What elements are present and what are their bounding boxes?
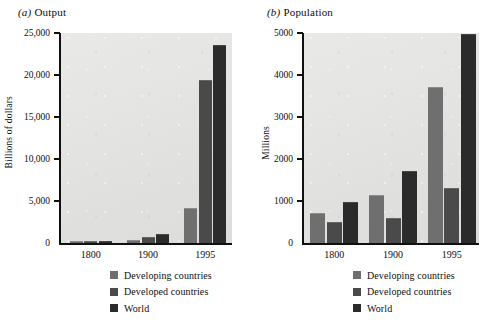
legend-item[interactable]: Developed countries [353,285,455,299]
y-tick-label: 5000 [247,28,293,38]
panel-b-title: (b) Population [267,6,333,18]
legend-label: Developing countries [124,270,212,281]
legend-swatch-developed-icon [353,288,361,296]
y-tick-mark [297,158,303,160]
legend-label: Developed countries [124,286,208,297]
legend-item[interactable]: World [353,301,455,315]
y-tick-mark [54,116,60,118]
bar-1800-series0 [310,213,325,243]
panel-a-plot-area [60,33,232,243]
y-tick-label: 1000 [247,196,293,206]
panel-a-title-text: Output [34,6,66,18]
legend-swatch-world-icon [353,304,361,312]
bar-1800-series2 [343,202,358,243]
bar-1900-series0 [369,195,384,243]
panel-b-y-axis-line [302,33,304,244]
panel-a-x-axis-line [59,243,232,245]
panel-b-title-text: Population [283,6,333,18]
bar-1800-series1 [327,222,342,243]
y-tick-mark [297,116,303,118]
legend-item[interactable]: Developing countries [110,268,212,282]
y-tick-mark [297,74,303,76]
y-tick-mark [54,32,60,34]
y-tick-mark [297,32,303,34]
panel-b-tag: (b) [267,6,280,18]
y-tick-mark [297,200,303,202]
legend-item[interactable]: Developed countries [110,285,212,299]
x-tick-label: 1900 [138,249,158,260]
bar-1995-series1 [444,188,459,243]
legend-swatch-developing-icon [110,271,118,279]
x-tick-label: 1800 [324,249,344,260]
legend-label: World [124,303,149,314]
y-tick-label: 0 [247,238,293,248]
panel-a-legend: Developing countries Developed countries… [110,268,212,318]
bar-1995-series2 [461,34,476,243]
y-tick-label: 25,000 [0,28,50,38]
legend-label: World [367,303,392,314]
bar-1995-series1 [199,80,212,243]
bar-1995-series0 [184,208,197,243]
y-tick-label: 0 [0,238,50,248]
legend-item[interactable]: Developing countries [353,268,455,282]
y-tick-label: 10,000 [0,154,50,164]
panel-b-legend: Developing countries Developed countries… [353,268,455,318]
panel-a-title: (a) Output [18,6,66,18]
panel-a-y-axis-line [59,33,61,244]
legend-label: Developed countries [367,286,451,297]
legend-item[interactable]: World [110,301,212,315]
figure-panels: (a) Output Billions of dollars 05,00010,… [0,0,495,322]
x-tick-label: 1995 [442,249,462,260]
y-tick-label: 15,000 [0,112,50,122]
y-tick-label: 4000 [247,70,293,80]
bar-1995-series2 [213,45,226,243]
x-tick-label: 1900 [383,249,403,260]
bar-1995-series0 [428,87,443,243]
x-tick-label: 1800 [81,249,101,260]
legend-swatch-world-icon [110,304,118,312]
panel-population: (b) Population Millions 0100020003000400… [247,0,494,322]
panel-output: (a) Output Billions of dollars 05,00010,… [0,0,247,322]
y-tick-label: 2000 [247,154,293,164]
bar-1900-series2 [156,234,169,243]
y-tick-label: 3000 [247,112,293,122]
bar-1900-series2 [402,171,417,243]
y-tick-mark [54,74,60,76]
panel-b-x-axis-line [302,243,479,245]
y-tick-label: 5,000 [0,196,50,206]
panel-a-tag: (a) [18,6,31,18]
y-tick-mark [54,200,60,202]
y-tick-mark [54,158,60,160]
legend-swatch-developing-icon [353,271,361,279]
x-tick-label: 1995 [195,249,215,260]
bar-1900-series1 [386,218,401,243]
y-tick-label: 20,000 [0,70,50,80]
legend-swatch-developed-icon [110,288,118,296]
panel-b-plot-area [303,33,479,243]
legend-label: Developing countries [367,270,455,281]
